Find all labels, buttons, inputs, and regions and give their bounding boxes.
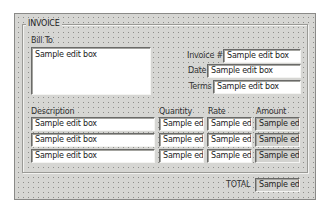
description-header: Description [31, 107, 74, 117]
invoice-number-field[interactable]: Sample edit box [223, 49, 301, 63]
description-field-row-2[interactable]: Sample edit box [31, 133, 155, 147]
quantity-header: Quantity [159, 107, 192, 117]
bill-to-textarea[interactable]: Sample edit box [31, 47, 151, 95]
date-label: Date [188, 66, 206, 76]
rate-header: Rate [208, 107, 226, 117]
total-field: Sample edit [255, 178, 300, 192]
description-field-row-3[interactable]: Sample edit box [31, 149, 155, 163]
amount-field-row-1: Sample edit [255, 117, 300, 131]
rate-field-row-3[interactable]: Sample edit [207, 149, 252, 163]
quantity-field-row-1[interactable]: Sample edit [159, 117, 204, 131]
invoice-number-label: Invoice # [187, 51, 223, 61]
amount-field-row-2: Sample edit [255, 133, 300, 147]
amount-field-row-3: Sample edit [255, 149, 300, 163]
total-label: TOTAL [226, 180, 250, 190]
amount-header: Amount [256, 107, 286, 117]
rate-field-row-1[interactable]: Sample edit [207, 117, 252, 131]
date-field[interactable]: Sample edit box [207, 64, 301, 78]
bill-to-label: Bill To [31, 36, 53, 46]
terms-field[interactable]: Sample edit box [213, 80, 301, 94]
invoice-group-title: INVOICE [26, 19, 62, 29]
rate-field-row-2[interactable]: Sample edit [207, 133, 252, 147]
description-field-row-1[interactable]: Sample edit box [31, 117, 155, 131]
quantity-field-row-3[interactable]: Sample edit [159, 149, 204, 163]
quantity-field-row-2[interactable]: Sample edit [159, 133, 204, 147]
terms-label: Terms [189, 82, 212, 92]
